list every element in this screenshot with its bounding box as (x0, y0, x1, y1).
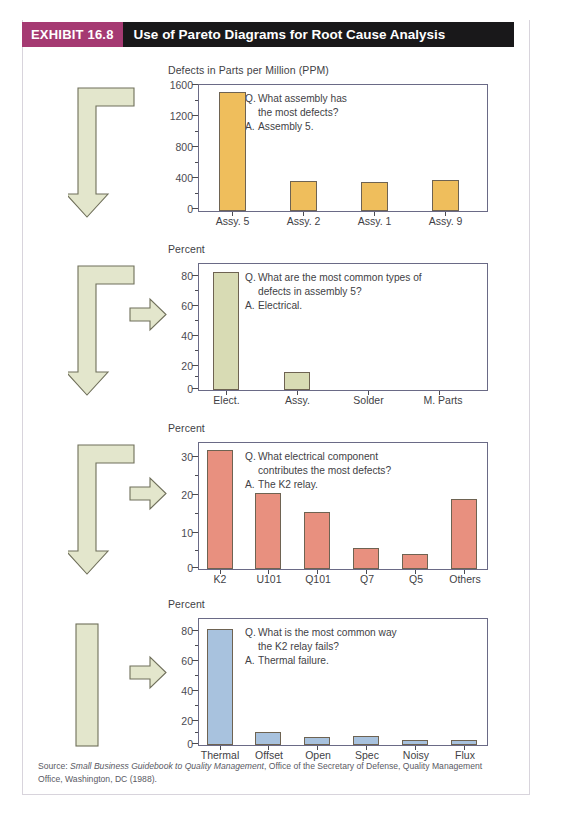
chart4-a-text: Thermal failure. (258, 655, 329, 666)
chart4-axis-title: Percent (168, 598, 205, 610)
chart4-bar-4 (402, 740, 428, 745)
chart4-ytick-60: 60 (164, 655, 193, 667)
chart4-q-line1: What is the most common way (258, 627, 397, 638)
chart4-q-label: Q. (245, 626, 258, 640)
chart4-ytick-80: 80 (164, 625, 193, 637)
source-prefix: Source: (38, 761, 70, 771)
chart4-bar-3 (353, 736, 379, 745)
source-note: Source: Small Business Guidebook to Qual… (38, 760, 508, 786)
exhibit-page: EXHIBIT 16.8 Use of Pareto Diagrams for … (0, 0, 564, 817)
chart4-ytick-0: 0 (164, 738, 193, 750)
chart4-bar-5 (451, 740, 477, 745)
chart4-annotation: Q.What is the most common way the K2 rel… (245, 626, 397, 668)
chart4-q-line2: the K2 relay fails? (258, 641, 339, 652)
chart4-ytick-40: 40 (164, 685, 193, 697)
chart4-bar-1 (255, 732, 281, 745)
source-title: Small Business Guidebook to Quality Mana… (70, 761, 264, 771)
chart-k2-failure-modes: Percent Q.What is the most common way th… (0, 0, 564, 770)
chart4-a-label: A. (245, 654, 258, 668)
chart4-ytick-20: 20 (164, 715, 193, 727)
chart4-bar-0 (207, 629, 233, 745)
chart4-bar-2 (304, 737, 330, 745)
